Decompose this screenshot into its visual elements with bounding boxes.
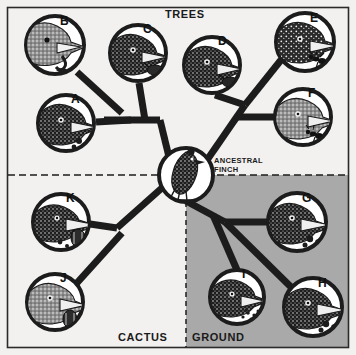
taxon-label-F: F	[308, 86, 315, 100]
branch-to-K	[90, 224, 117, 228]
taxon-label-B: B	[60, 14, 69, 28]
taxon-label-K: K	[66, 191, 75, 205]
ancestral-finch-node[interactable]	[159, 148, 213, 202]
taxon-label-C: C	[143, 22, 152, 36]
ancestral-finch-label-line2: FINCH	[214, 165, 238, 174]
taxon-label-J: J	[60, 271, 67, 285]
taxon-label-E: E	[310, 11, 318, 25]
phylogeny-canvas: B C D	[0, 0, 356, 355]
taxon-label-D: D	[218, 34, 227, 48]
taxon-label-I: I	[242, 267, 245, 281]
habitat-label-cactus: CACTUS	[118, 331, 167, 343]
taxon-label-A: A	[71, 92, 80, 106]
branch-to-A	[96, 120, 131, 122]
taxon-label-G: G	[302, 191, 311, 205]
finch-phylogeny-figure: B C D	[0, 0, 356, 355]
taxon-label-H: H	[318, 276, 327, 290]
ancestral-finch-label-line1: ANCESTRAL	[214, 156, 263, 165]
habitat-label-ground: GROUND	[192, 331, 245, 343]
habitat-label-trees: TREES	[165, 8, 205, 20]
